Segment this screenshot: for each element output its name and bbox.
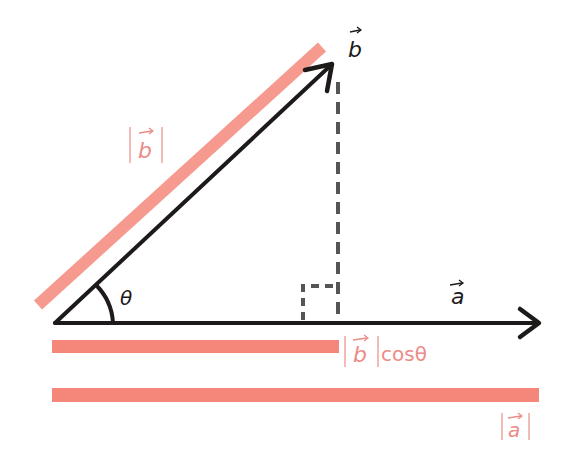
svg-text:a: a [451, 284, 464, 309]
magnitude-b-label: b [130, 127, 162, 163]
svg-text:b: b [353, 342, 367, 367]
projection-bar [52, 340, 339, 353]
svg-text:b: b [348, 37, 362, 62]
angle-theta-label: θ [120, 286, 132, 310]
projection-label: b cosθ [345, 335, 427, 367]
right-angle-marker [303, 286, 338, 320]
projection-diagram: b a θ b b cosθ a [0, 0, 575, 470]
vector-b-label: b [348, 27, 362, 62]
svg-text:b: b [138, 138, 152, 163]
magnitude-bar-b [38, 47, 322, 305]
vector-a-label: a [450, 280, 464, 309]
vector-b-line [55, 66, 330, 323]
svg-text:a: a [508, 418, 520, 442]
magnitude-a-label: a [502, 413, 529, 442]
angle-arc [96, 285, 113, 323]
magnitude-bar-a [52, 388, 539, 402]
svg-text:cosθ: cosθ [381, 342, 427, 366]
